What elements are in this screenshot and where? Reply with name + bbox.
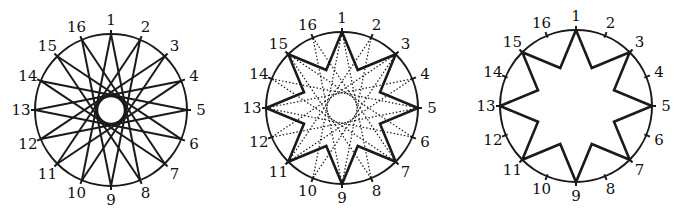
point-label: 1 bbox=[571, 7, 581, 25]
point-label: 7 bbox=[635, 161, 645, 179]
point-label: 9 bbox=[337, 189, 347, 207]
point-label: 14 bbox=[249, 65, 268, 83]
diagram-canvas: 12345678910111213141516 1234567891011121… bbox=[0, 0, 676, 218]
point-label: 10 bbox=[532, 180, 551, 198]
point-label: 11 bbox=[38, 165, 57, 183]
point-label: 7 bbox=[401, 163, 411, 181]
point-label: 10 bbox=[298, 182, 317, 200]
point-label: 10 bbox=[67, 184, 86, 202]
point-label: 5 bbox=[661, 97, 671, 115]
point-label: 6 bbox=[654, 131, 664, 149]
point-label: 7 bbox=[170, 165, 180, 183]
point-label: 3 bbox=[170, 37, 180, 55]
point-label: 2 bbox=[372, 16, 382, 34]
star-chord bbox=[272, 108, 418, 137]
point-label: 3 bbox=[635, 33, 645, 51]
star-chord bbox=[272, 54, 396, 137]
point-label: 9 bbox=[571, 187, 581, 205]
point-label: 8 bbox=[372, 182, 382, 200]
star-chord bbox=[313, 38, 342, 184]
point-label: 4 bbox=[420, 65, 430, 83]
inner-circle bbox=[97, 96, 125, 124]
point-label: 12 bbox=[483, 131, 502, 149]
point-label: 2 bbox=[606, 14, 616, 32]
figure-star-16-7-highlighted-8-3: 12345678910111213141516 bbox=[242, 9, 436, 207]
figure-star-16-7: 12345678910111213141516 bbox=[11, 11, 205, 209]
point-label: 16 bbox=[67, 18, 86, 36]
point-label: 6 bbox=[420, 133, 430, 151]
point-label: 8 bbox=[606, 180, 616, 198]
point-label: 16 bbox=[298, 16, 317, 34]
point-label: 13 bbox=[11, 101, 30, 119]
figure-star-8-3: 12345678910111213141516 bbox=[476, 7, 670, 205]
point-label: 14 bbox=[18, 67, 37, 85]
point-label: 14 bbox=[483, 63, 502, 81]
point-label: 3 bbox=[401, 35, 411, 53]
point-label: 5 bbox=[196, 101, 206, 119]
star-chord bbox=[288, 54, 371, 178]
star-chord bbox=[266, 79, 412, 108]
point-label: 1 bbox=[106, 11, 116, 29]
point-label: 2 bbox=[141, 18, 151, 36]
point-label: 9 bbox=[106, 191, 116, 209]
point-label: 6 bbox=[189, 135, 199, 153]
point-label: 4 bbox=[189, 67, 199, 85]
point-label: 15 bbox=[38, 37, 57, 55]
point-label: 12 bbox=[18, 135, 37, 153]
point-label: 11 bbox=[503, 161, 522, 179]
point-label: 5 bbox=[427, 99, 437, 117]
point-label: 16 bbox=[532, 14, 551, 32]
point-label: 4 bbox=[654, 63, 664, 81]
point-label: 15 bbox=[269, 35, 288, 53]
point-label: 15 bbox=[503, 33, 522, 51]
point-label: 12 bbox=[249, 133, 268, 151]
point-label: 8 bbox=[141, 184, 151, 202]
star-chord bbox=[313, 38, 396, 162]
point-label: 13 bbox=[242, 99, 261, 117]
point-label: 1 bbox=[337, 9, 347, 27]
star-chord bbox=[288, 79, 412, 162]
point-label: 13 bbox=[476, 97, 495, 115]
star-chord bbox=[342, 32, 371, 178]
point-label: 11 bbox=[269, 163, 288, 181]
